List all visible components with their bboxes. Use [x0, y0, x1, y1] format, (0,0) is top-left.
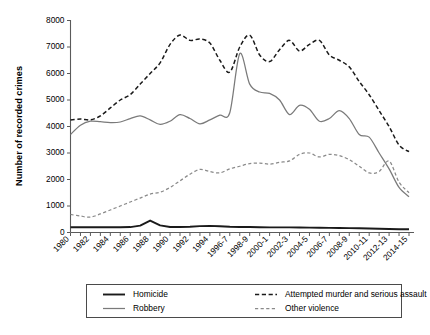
y-axis-title-group: Number of recorded crimes	[14, 66, 24, 186]
x-tick-label: 1982	[71, 234, 91, 254]
x-tick-label: 1986	[111, 234, 131, 254]
y-tick-label: 4000	[46, 121, 65, 131]
legend-label-attempted-murder-and-serious-assault: Attempted murder and serious assault	[285, 289, 427, 299]
chart-container: Number of recorded crimes 01000200030004…	[0, 0, 430, 335]
x-tick-label: 1992	[170, 234, 190, 254]
y-tick-label: 6000	[46, 68, 65, 78]
series-line-robbery	[71, 53, 410, 197]
legend-label-homicide: Homicide	[133, 289, 168, 299]
data-series-group	[71, 35, 410, 229]
y-tick-label: 8000	[46, 15, 65, 25]
y-tick-label: 3000	[46, 147, 65, 157]
y-axis-ticks: 010002000300040005000600070008000	[46, 15, 70, 237]
crime-line-chart: Number of recorded crimes 01000200030004…	[0, 0, 430, 335]
y-axis-title: Number of recorded crimes	[14, 66, 24, 186]
x-tick-label: 1980	[51, 234, 71, 254]
y-tick-label: 5000	[46, 94, 65, 104]
y-tick-label: 1000	[46, 200, 65, 210]
x-axis-ticks: 198019821984198619881990199219941996-719…	[51, 233, 410, 263]
x-tick-label: 1990	[150, 234, 170, 254]
y-tick-label: 2000	[46, 174, 65, 184]
y-tick-label: 7000	[46, 41, 65, 51]
x-tick-label: 1988	[130, 234, 150, 254]
series-line-homicide	[71, 221, 410, 230]
legend-label-other-violence: Other violence	[285, 303, 339, 313]
x-tick-label: 1984	[91, 234, 111, 254]
series-line-other-violence	[71, 153, 410, 217]
legend: HomicideAttempted murder and serious ass…	[87, 285, 428, 318]
legend-label-robbery: Robbery	[133, 303, 165, 313]
